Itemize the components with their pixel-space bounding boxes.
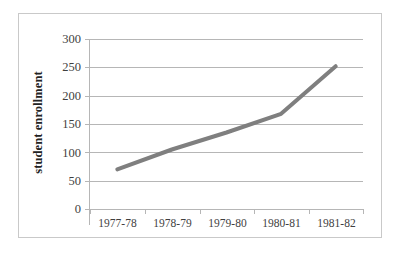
y-tick-label-50: 50 — [47, 174, 81, 189]
x-axis-tick — [145, 209, 146, 214]
x-axis-tick — [90, 209, 91, 214]
x-tick-label-1: 1978-79 — [145, 217, 200, 229]
series-polyline — [117, 66, 335, 169]
category-axis-line — [89, 209, 363, 210]
line-series — [90, 39, 363, 209]
y-tick-label-200: 200 — [47, 89, 81, 104]
y-tick-label-150: 150 — [47, 117, 81, 132]
y-axis-title: student enrollment — [30, 42, 46, 202]
y-tick-label-100: 100 — [47, 146, 81, 161]
x-tick-label-3: 1980-81 — [254, 217, 309, 229]
chart-frame: student enrollment 300 250 200 150 100 5… — [18, 13, 382, 238]
chart-screenshot: student enrollment 300 250 200 150 100 5… — [0, 0, 399, 254]
x-tick-label-0: 1977-78 — [90, 217, 145, 229]
plot-area — [90, 39, 363, 209]
y-tick-label-250: 250 — [47, 60, 81, 75]
x-axis-tick — [309, 209, 310, 214]
x-tick-label-4: 1981-82 — [309, 217, 364, 229]
x-tick-label-2: 1979-80 — [200, 217, 255, 229]
x-axis-tick — [254, 209, 255, 214]
y-tick-label-0: 0 — [47, 202, 81, 217]
x-axis-tick — [200, 209, 201, 214]
x-axis-tick — [363, 209, 364, 214]
y-axis-title-label: student enrollment — [31, 71, 46, 174]
y-tick-label-300: 300 — [47, 32, 81, 47]
